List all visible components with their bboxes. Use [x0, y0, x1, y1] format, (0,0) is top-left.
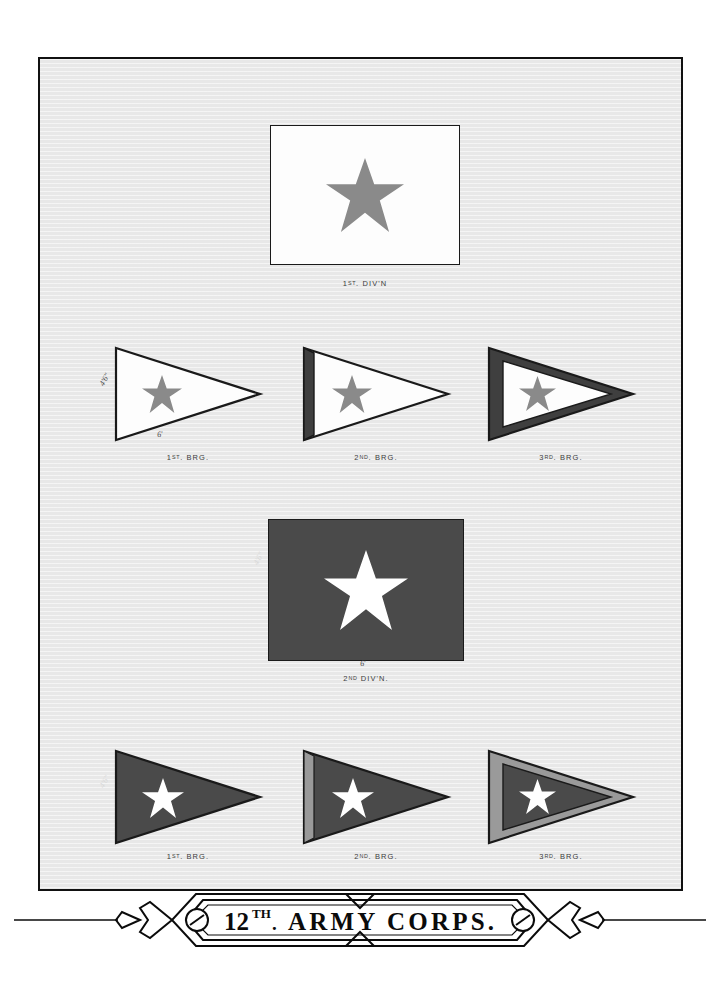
second-division-flag [268, 519, 464, 661]
title-text: ARMY CORPS. [288, 908, 497, 935]
div2-brigade-1-caption: 1ST. BRG. [112, 852, 264, 861]
first-division-figure [270, 125, 460, 265]
left-medallion-icon [186, 909, 208, 931]
div1-brigade-2-pennant [300, 344, 452, 444]
div1-brigade-2-caption: 2ND. BRG. [300, 453, 452, 462]
div2-brigade-3-caption: 3RD. BRG. [485, 852, 637, 861]
div2-brigade-1-pennant [112, 747, 264, 847]
div2-brigade-3-pennant [485, 747, 637, 847]
title-cartouche: 12 TH . ARMY CORPS. [0, 884, 720, 956]
div1-brigade-3-pennant [485, 344, 637, 444]
second-division-star [324, 550, 408, 630]
second-division-figure [268, 519, 464, 661]
first-division-flag [270, 125, 460, 265]
div2-brigade-2-shape [300, 747, 452, 847]
first-division-star [326, 158, 404, 232]
right-medallion-icon [512, 909, 534, 931]
first-division-caption: 1ST. DIV'N [270, 279, 460, 288]
div1-brigade-1-height-dimension: 4'6" [97, 372, 111, 388]
second-division-width-dimension: 6' [359, 659, 366, 669]
div1-brigade-1-caption: 1ST. BRG. [112, 453, 264, 462]
div2-brigade-1-height-dimension: 4'6" [97, 774, 111, 790]
div1-brigade-3-caption: 3RD. BRG. [485, 453, 637, 462]
div2-brigade-3-shape [485, 747, 637, 847]
title-ordinal: TH [252, 906, 271, 921]
second-division-height-dimension: 4'6" [251, 551, 265, 567]
title-ordinal-period: . [272, 913, 277, 934]
title-number: 12 [224, 908, 249, 935]
div1-brigade-1-pennant [112, 344, 264, 444]
illustration-plate: 1ST. DIV'N 4'6" 6' 1ST. BRG. 2ND. BRG. 3… [38, 57, 683, 891]
div2-brigade-1-shape [112, 747, 264, 847]
div1-brigade-1-hypotenuse-dimension: 6' [156, 430, 163, 440]
div1-brigade-3-shape [485, 344, 637, 444]
div2-brigade-2-pennant [300, 747, 452, 847]
div1-brigade-2-shape [300, 344, 452, 444]
second-division-caption: 2ND DIV'N. [268, 674, 464, 683]
div1-brigade-1-shape [112, 344, 264, 444]
div2-brigade-2-caption: 2ND. BRG. [300, 852, 452, 861]
